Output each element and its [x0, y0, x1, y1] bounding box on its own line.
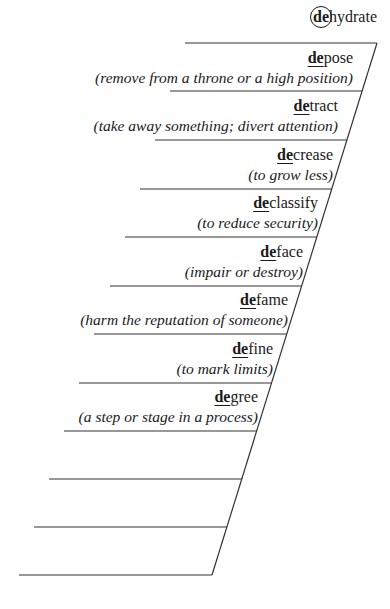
- entry-definition: (impair or destroy): [185, 262, 303, 282]
- entry-rest: pose: [324, 49, 353, 66]
- entry-definition: (remove from a throne or a high position…: [95, 68, 353, 88]
- entry-defame: defame (harm the reputation of someone): [80, 290, 288, 330]
- root-word-dehydrate: dehydrate: [313, 8, 377, 26]
- entry-prefix: de: [240, 291, 256, 308]
- entry-prefix: de: [294, 97, 310, 114]
- entry-definition: (to reduce security): [197, 213, 318, 233]
- entry-prefix: de: [253, 194, 269, 211]
- entry-definition: (take away something; divert attention): [94, 116, 339, 136]
- entry-rest: crease: [293, 146, 333, 163]
- entry-rest: fine: [248, 340, 273, 357]
- entry-rest: tract: [310, 97, 338, 114]
- entry-rest: fame: [256, 291, 288, 308]
- entry-prefix: de: [232, 340, 248, 357]
- entry-rest: classify: [269, 194, 318, 211]
- entry-detract: detract (take away something; divert att…: [94, 96, 339, 136]
- entry-define: define (to mark limits): [177, 339, 273, 379]
- entry-definition: (a step or stage in a process): [79, 407, 258, 427]
- entry-declassify: declassify (to reduce security): [197, 193, 318, 233]
- entry-prefix: de: [260, 243, 276, 260]
- circled-prefix: de: [313, 8, 329, 25]
- entry-definition: (harm the reputation of someone): [80, 310, 288, 330]
- root-word-rest: hydrate: [329, 8, 377, 25]
- entry-prefix: de: [214, 388, 230, 405]
- entry-degree: degree (a step or stage in a process): [79, 387, 258, 427]
- entry-decrease: decrease (to grow less): [248, 145, 333, 185]
- entry-deface: deface (impair or destroy): [185, 242, 303, 282]
- entry-rest: face: [276, 243, 303, 260]
- entry-definition: (to grow less): [248, 165, 333, 185]
- entry-prefix: de: [308, 49, 324, 66]
- entry-definition: (to mark limits): [177, 359, 273, 379]
- entry-rest: gree: [230, 388, 258, 405]
- entry-prefix: de: [277, 146, 293, 163]
- entry-depose: depose (remove from a throne or a high p…: [95, 48, 353, 88]
